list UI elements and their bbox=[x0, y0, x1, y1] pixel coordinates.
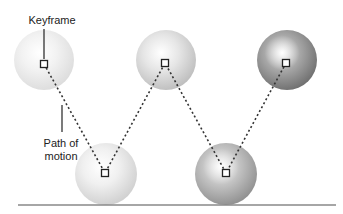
path-of-motion-label-line1: Path of bbox=[36, 137, 86, 150]
keyframe-marker-4 bbox=[223, 170, 230, 177]
keyframe-marker-5 bbox=[283, 60, 290, 67]
keyframe-marker-2 bbox=[102, 170, 109, 177]
diagram-canvas bbox=[0, 0, 343, 214]
ball-spheres bbox=[14, 30, 317, 205]
keyframe-label: Keyframe bbox=[26, 14, 78, 27]
keyframe-marker-1 bbox=[41, 61, 48, 68]
path-of-motion-label: Path of motion bbox=[36, 137, 86, 163]
path-of-motion-label-line2: motion bbox=[36, 150, 86, 163]
keyframe-animation-diagram: Keyframe Path of motion bbox=[0, 0, 343, 214]
keyframe-marker-3 bbox=[162, 60, 169, 67]
